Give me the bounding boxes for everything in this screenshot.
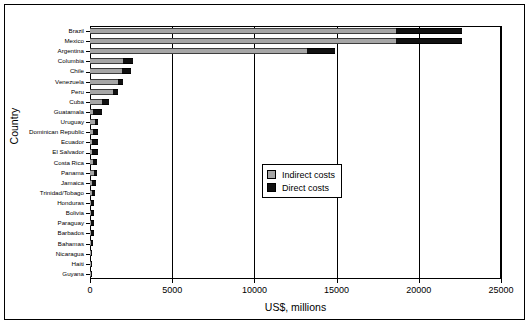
x-tick-label: 0	[87, 285, 92, 295]
legend: Indirect costs Direct costs	[262, 164, 342, 198]
y-tick-label: Dominican Republic	[29, 127, 84, 138]
y-tick-label: Mexico	[64, 36, 84, 47]
x-tick-mark	[254, 279, 255, 283]
y-tick-label: Uruguay	[61, 117, 84, 128]
y-tick-label: Jamaica	[61, 178, 84, 189]
y-tick-label: Columbia	[58, 56, 84, 67]
y-tick-label: Chile	[70, 66, 84, 77]
gridline-20000	[419, 26, 420, 279]
y-axis-tick-labels: BrazilMexicoArgentinaColumbiaChileVenezu…	[0, 26, 88, 279]
y-tick-label: Venezuela	[55, 77, 84, 88]
y-tick-label: Brazil	[69, 26, 84, 37]
legend-item-indirect-costs: Indirect costs	[267, 168, 335, 181]
gridline-15000	[337, 26, 338, 279]
legend-label-indirect: Indirect costs	[282, 170, 335, 180]
y-tick-label: Haiti	[72, 259, 84, 270]
y-tick-label: Trinidad/Tobago	[40, 188, 84, 199]
y-tick-label: Ecuador	[61, 137, 84, 148]
gridline-5000	[172, 26, 173, 279]
y-tick-label: Peru	[71, 87, 84, 98]
x-tick-mark	[337, 279, 338, 283]
y-tick-label: Bolivia	[66, 208, 84, 219]
y-tick-label: Honduras	[57, 198, 84, 209]
y-tick-label: Guyana	[62, 269, 84, 280]
x-tick-label: 10000	[242, 285, 267, 295]
legend-label-direct: Direct costs	[282, 183, 329, 193]
x-tick-label: 25000	[488, 285, 513, 295]
x-tick-mark	[501, 279, 502, 283]
x-tick-label: 15000	[324, 285, 349, 295]
gridline-25000	[501, 26, 502, 279]
legend-swatch-indirect-icon	[267, 170, 276, 179]
y-tick-label: Cuba	[69, 97, 84, 108]
y-tick-label: Panama	[61, 168, 84, 179]
legend-swatch-direct-icon	[267, 183, 276, 192]
y-tick-label: El Salvador	[52, 147, 84, 158]
y-tick-label: Costa Rica	[54, 158, 84, 169]
chart-screenshot: Country BrazilMexicoArgentinaColumbiaChi…	[0, 0, 531, 326]
x-tick-mark	[419, 279, 420, 283]
x-tick-label: 20000	[406, 285, 431, 295]
x-tick-mark	[90, 279, 91, 283]
y-tick-label: Bahamas	[58, 239, 84, 250]
gridline-10000	[254, 26, 255, 279]
y-tick-label: Barbados	[58, 228, 85, 239]
y-tick-label: Nicaragua	[56, 249, 84, 260]
y-tick-label: Argentina	[58, 46, 85, 57]
y-tick-label: Paraguay	[58, 218, 85, 229]
x-tick-label: 5000	[162, 285, 182, 295]
y-tick-label: Guatamala	[54, 107, 84, 118]
x-tick-mark	[172, 279, 173, 283]
legend-item-direct-costs: Direct costs	[267, 181, 335, 194]
x-axis-title: US$, millions	[90, 301, 501, 313]
gridlines	[90, 26, 501, 279]
